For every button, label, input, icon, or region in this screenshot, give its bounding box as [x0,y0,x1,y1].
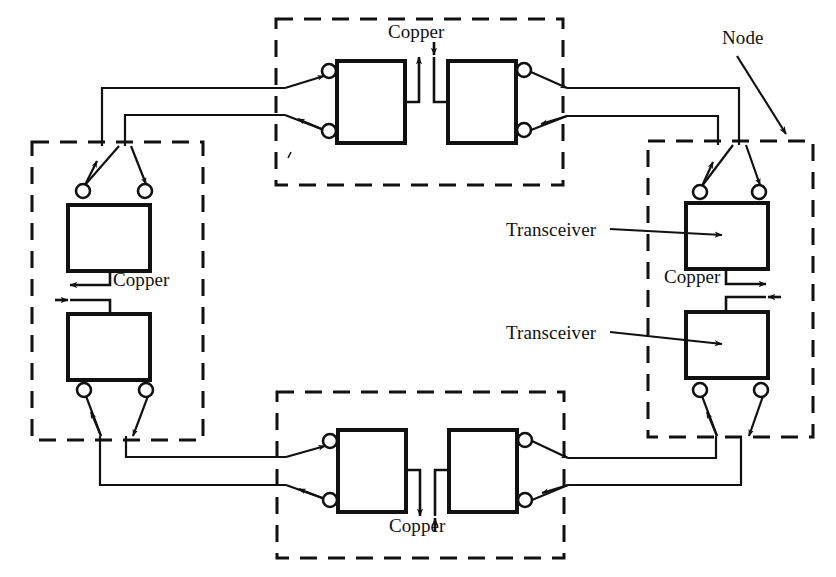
port-leads-top-left [285,76,324,130]
port-left-lower-b [139,383,153,397]
transceiver-upper-callout-leader [610,229,722,235]
port-bottom-left-lower [323,493,337,507]
link-top-to-right [567,88,739,145]
copper-label-right: Copper [664,267,721,286]
node-callout-leader [737,56,786,134]
copper-label-bottom: Copper [389,516,446,535]
port-left-upper-b [138,184,152,198]
port-top-left-upper [322,64,336,78]
copper-link-right [726,269,781,312]
copper-label-top: Copper [388,22,445,41]
port-top-left-lower [322,124,336,138]
port-bottom-right-upper [518,433,532,447]
link-top-to-left [102,88,285,146]
copper-label-left: Copper [113,270,170,289]
port-left-lower-a [77,383,91,397]
port-leads-right-bottom [702,396,763,436]
port-right-upper-a [693,185,707,199]
scan-artifact-tick [288,152,291,158]
port-right-upper-b [752,185,766,199]
node-boundary-right [648,141,813,437]
port-leads-bottom-left [286,446,325,499]
diagram-canvas: Copper Copper Copper Copper Node Transce… [0,0,836,577]
copper-link-left [55,271,110,314]
transceiver-box-bottom-left [338,430,406,512]
port-right-lower-a [693,383,707,397]
port-bottom-right-lower [518,493,532,507]
transceiver-label-lower: Transceiver [506,323,596,342]
transceiver-box-top-left [337,61,405,143]
transceiver-box-right-lower [686,312,768,378]
transceiver-lower-callout-leader [610,332,722,344]
transceiver-label-upper: Transceiver [506,220,596,239]
link-bottom-to-right [568,436,741,485]
port-bottom-left-upper [323,434,337,448]
copper-link-top [405,42,448,102]
port-leads-left-top [85,146,146,185]
port-top-right-lower [517,123,531,137]
node-label: Node [722,28,764,47]
port-left-upper-a [76,184,90,198]
transceiver-box-left-lower [68,314,150,380]
port-top-right-upper [517,63,531,77]
transceiver-box-right-upper [686,203,768,269]
port-right-lower-b [754,383,768,397]
transceiver-box-bottom-right [449,430,517,512]
transceiver-box-left-upper [68,205,150,271]
port-leads-left-bottom [86,396,148,436]
link-bottom-to-left [100,436,286,485]
transceiver-box-top-right [448,61,516,143]
node-boundary-left [32,142,203,440]
port-leads-right-top [702,145,760,186]
